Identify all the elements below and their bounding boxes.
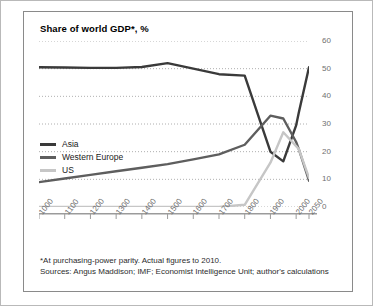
legend-swatch-icon xyxy=(40,143,56,146)
y-tick-label-20: 20 xyxy=(322,148,331,156)
chart-panel: Share of world GDP*, % 0102030405060 100… xyxy=(23,11,353,292)
chart-legend: AsiaWestern EuropeUS xyxy=(40,138,123,177)
legend-item-label: US xyxy=(62,166,74,175)
y-tick-label-10: 10 xyxy=(322,175,331,183)
legend-item-label: Asia xyxy=(62,140,79,149)
footnote-methodology: *At purchasing-power parity. Actual figu… xyxy=(40,255,340,266)
x-axis-tick-labels: 1000110012001300140015001600170018001900… xyxy=(24,211,354,251)
y-tick-label-60: 60 xyxy=(322,37,331,45)
legend-item-western-europe[interactable]: Western Europe xyxy=(40,151,123,164)
plot-area xyxy=(39,41,309,207)
legend-item-label: Western Europe xyxy=(62,153,123,162)
legend-swatch-icon xyxy=(40,169,56,172)
footnotes: *At purchasing-power parity. Actual figu… xyxy=(40,255,340,277)
footnote-sources: Sources: Angus Maddison; IMF; Economist … xyxy=(40,266,340,277)
line-chart-svg xyxy=(39,41,309,207)
y-axis-tick-labels: 0102030405060 xyxy=(322,41,352,211)
legend-item-us[interactable]: US xyxy=(40,164,123,177)
y-tick-label-30: 30 xyxy=(322,120,331,128)
figure-outer-frame: Share of world GDP*, % 0102030405060 100… xyxy=(0,0,373,306)
y-tick-label-50: 50 xyxy=(322,65,331,73)
legend-item-asia[interactable]: Asia xyxy=(40,138,123,151)
page-title: Share of world GDP*, % xyxy=(40,23,149,34)
legend-swatch-icon xyxy=(40,156,56,159)
y-tick-label-40: 40 xyxy=(322,92,331,100)
